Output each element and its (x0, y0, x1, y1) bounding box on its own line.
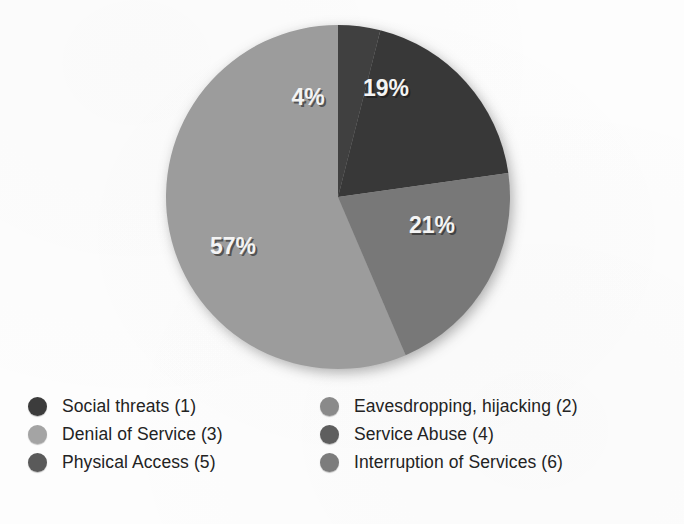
legend-label: Interruption of Services (6) (354, 452, 563, 473)
pie-svg: 4% 4% 19% 19% 21% 21% 57% 57% (164, 23, 512, 371)
legend-label: Eavesdropping, hijacking (2) (354, 396, 578, 417)
legend-swatch-icon (28, 397, 47, 416)
legend-item-service-abuse[interactable]: Service Abuse (4) (320, 420, 658, 448)
legend-swatch-icon (320, 397, 339, 416)
legend-item-interruption-of-services[interactable]: Interruption of Services (6) (320, 448, 658, 476)
slice-label-4: 4% (291, 84, 324, 110)
pie-chart: 4% 4% 19% 19% 21% 21% 57% 57% (164, 23, 512, 371)
legend-swatch-icon (28, 425, 47, 444)
chart-legend: Social threats (1) Eavesdropping, hijack… (28, 392, 658, 476)
legend-swatch-icon (28, 453, 47, 472)
slice-label-57: 57% (210, 233, 256, 259)
legend-swatch-icon (320, 453, 339, 472)
legend-item-social-threats[interactable]: Social threats (1) (28, 392, 320, 420)
legend-label: Social threats (1) (62, 396, 196, 417)
legend-swatch-icon (320, 425, 339, 444)
legend-label: Denial of Service (3) (62, 424, 223, 445)
slice-label-19: 19% (363, 75, 409, 101)
chart-page: 4% 4% 19% 19% 21% 21% 57% 57% Social thr… (0, 0, 684, 524)
legend-item-eavesdropping-hijacking[interactable]: Eavesdropping, hijacking (2) (320, 392, 658, 420)
legend-label: Service Abuse (4) (354, 424, 494, 445)
legend-item-denial-of-service[interactable]: Denial of Service (3) (28, 420, 320, 448)
legend-label: Physical Access (5) (62, 452, 216, 473)
legend-item-physical-access[interactable]: Physical Access (5) (28, 448, 320, 476)
slice-label-21: 21% (409, 212, 455, 238)
